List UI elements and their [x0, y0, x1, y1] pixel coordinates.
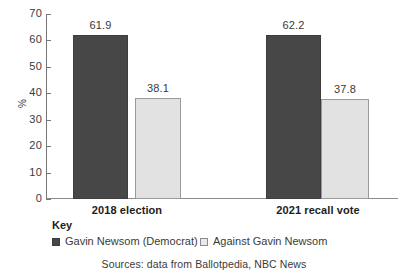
y-axis-tick-label: 40	[16, 86, 42, 98]
bar: 37.8	[321, 99, 369, 199]
bar: 62.2	[266, 35, 321, 199]
legend-label-newsom: Gavin Newsom (Democrat)	[65, 236, 198, 247]
bar-value-label: 62.2	[282, 19, 304, 31]
x-axis-category-label: 2018 election	[92, 204, 162, 216]
bar-value-label: 61.9	[89, 19, 111, 31]
bar: 38.1	[135, 98, 181, 199]
bar-value-label: 38.1	[147, 82, 169, 94]
legend: Gavin Newsom (Democrat) Against Gavin Ne…	[52, 236, 382, 250]
legend-label-against: Against Gavin Newsom	[213, 236, 327, 247]
y-axis-tick-mark	[46, 199, 51, 200]
legend-item-newsom: Gavin Newsom (Democrat)	[52, 236, 198, 247]
y-axis-tick-label: 20	[16, 139, 42, 151]
legend-swatch-dark-icon	[52, 238, 60, 246]
plot-area: 61.938.162.237.8	[46, 14, 398, 199]
source-note: Sources: data from Ballotpedia, NBC News	[0, 258, 408, 270]
y-axis-tick-label: 0	[16, 192, 42, 204]
key-heading: Key	[52, 219, 72, 231]
legend-item-against: Against Gavin Newsom	[200, 236, 327, 247]
y-axis-tick-label: 60	[16, 33, 42, 45]
y-axis-tick-label: 30	[16, 113, 42, 125]
y-axis-tick-label: 10	[16, 166, 42, 178]
bar-chart-figure: % 706050403020100 61.938.162.237.8 2018 …	[0, 0, 408, 276]
bar-value-label: 37.8	[334, 83, 356, 95]
y-axis-tick-label: 70	[16, 7, 42, 19]
legend-swatch-light-icon	[200, 238, 208, 246]
y-axis-tick-label: 50	[16, 60, 42, 72]
x-axis-category-label: 2021 recall vote	[276, 204, 360, 216]
bar: 61.9	[73, 35, 128, 199]
